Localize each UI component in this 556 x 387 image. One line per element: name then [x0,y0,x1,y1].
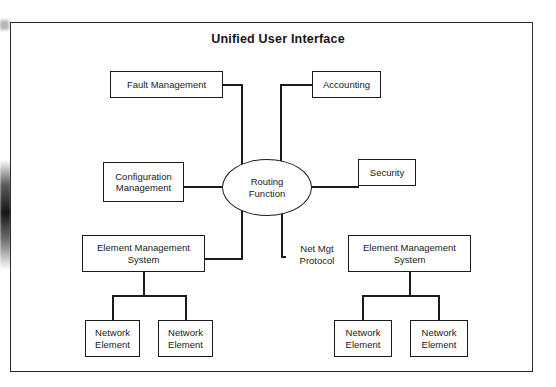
node-ems-left-label-line2: System [128,254,160,266]
edge-security [309,186,359,188]
node-configuration-management-label-line2: Management [116,182,171,194]
node-ems-right-label-line2: System [394,254,426,266]
node-ems-right-label-line1: Element Management [363,242,456,254]
edge-ems-left-tree-drop-1 [112,295,114,321]
edge-label-net-mgt-protocol: Net Mgt Protocol [286,243,348,267]
node-fault-management[interactable]: Fault Management [110,71,223,98]
edge-ems-left-tree-stem [143,271,145,296]
node-network-element-4-label-line1: Network [422,327,457,339]
node-routing-function-label-line1: Routing [251,176,284,188]
edge-ems-left-horizontal [204,258,243,260]
node-network-element-4[interactable]: Network Element [410,320,468,357]
node-network-element-3-label-line2: Element [346,339,381,351]
node-security-label: Security [370,167,404,179]
node-routing-function-label-line2: Function [249,188,285,200]
node-configuration-management-label-line1: Configuration [115,171,172,183]
node-element-management-system-left[interactable]: Element Management System [82,235,205,272]
edge-fault-management-vertical [241,84,243,170]
page-title: Unified User Interface [0,32,556,46]
edge-ems-right-tree-drop-2 [438,295,440,321]
node-network-element-3-label-line1: Network [346,327,381,339]
node-accounting[interactable]: Accounting [312,71,381,98]
edge-ems-left-tree-drop-2 [185,295,187,321]
edge-label-net-mgt-protocol-line2: Protocol [287,255,347,267]
node-fault-management-label: Fault Management [127,79,206,91]
node-routing-function[interactable]: Routing Function [222,159,312,216]
node-security[interactable]: Security [358,159,416,186]
edge-accounting-vertical [280,84,282,168]
node-configuration-management[interactable]: Configuration Management [103,162,184,202]
edge-ems-left-tree-bus [112,295,186,297]
edge-ems-right-tree-bus [362,295,440,297]
node-network-element-1-label-line1: Network [95,327,130,339]
scan-artifact-top [0,20,9,30]
node-network-element-3[interactable]: Network Element [334,320,392,357]
node-ems-left-label-line1: Element Management [97,242,190,254]
node-network-element-1-label-line2: Element [95,339,130,351]
diagram-canvas: Unified User Interface Net Mgt Protocol … [0,0,556,387]
node-network-element-2[interactable]: Network Element [158,320,213,357]
edge-label-net-mgt-protocol-line1: Net Mgt [287,243,347,255]
edge-ems-right-tree-stem [409,271,411,296]
edge-fault-management-horizontal [222,84,243,86]
edge-accounting-horizontal [280,84,313,86]
node-network-element-2-label-line2: Element [168,339,203,351]
edge-ems-left-vertical [241,205,243,260]
edge-ems-right-tree-drop-1 [362,295,364,321]
node-network-element-1[interactable]: Network Element [85,320,140,357]
node-network-element-2-label-line1: Network [168,327,203,339]
node-network-element-4-label-line2: Element [422,339,457,351]
edge-configuration-management [183,186,225,188]
node-accounting-label: Accounting [323,79,370,91]
node-element-management-system-right[interactable]: Element Management System [348,235,471,272]
